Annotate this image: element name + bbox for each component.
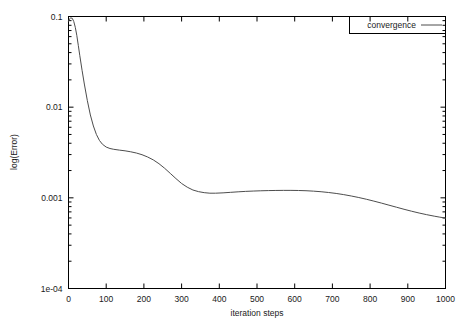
x-tick-label: 900 xyxy=(401,294,415,304)
x-tick-label: 600 xyxy=(288,294,302,304)
y-tick-label: 1e-04 xyxy=(41,284,63,294)
y-axis-title: log(Error) xyxy=(9,134,19,170)
x-tick-label: 100 xyxy=(99,294,113,304)
x-axis-major-ticks xyxy=(69,17,446,289)
y-axis-major-ticks xyxy=(69,17,446,289)
x-axis-tick-labels: 01002003004005006007008009001000 xyxy=(66,294,455,304)
y-axis-tick-labels: 1e-040.0010.010.1 xyxy=(41,12,63,294)
y-tick-label: 0.001 xyxy=(41,193,63,203)
legend-entry-label: convergence xyxy=(367,20,416,30)
y-tick-label: 0.01 xyxy=(46,102,63,112)
y-tick-label: 0.1 xyxy=(51,12,63,22)
x-tick-label: 800 xyxy=(363,294,377,304)
chart-figure: 01002003004005006007008009001000 1e-040.… xyxy=(0,0,474,327)
x-tick-label: 0 xyxy=(66,294,71,304)
plot-frame xyxy=(69,17,446,289)
x-tick-label: 400 xyxy=(212,294,226,304)
x-axis-title: iteration steps xyxy=(231,308,284,318)
x-tick-label: 1000 xyxy=(436,294,455,304)
series-line-convergence xyxy=(69,18,446,218)
series-group xyxy=(69,18,446,218)
x-tick-label: 200 xyxy=(137,294,151,304)
x-tick-label: 500 xyxy=(250,294,264,304)
y-axis-minor-ticks xyxy=(69,21,446,262)
x-tick-label: 700 xyxy=(325,294,339,304)
x-tick-label: 300 xyxy=(175,294,189,304)
convergence-line-chart: 01002003004005006007008009001000 1e-040.… xyxy=(0,0,474,327)
chart-legend: convergence xyxy=(350,17,446,34)
